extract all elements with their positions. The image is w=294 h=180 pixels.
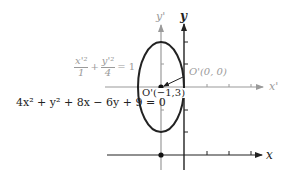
pointer-arrow	[164, 77, 183, 86]
projection-point	[158, 152, 163, 157]
equals-one: = 1	[117, 62, 135, 72]
general-form-equation: 4x² + y² + 8x − 6y + 9 = 0	[16, 97, 166, 108]
origin-prime-new-label: O'(0, 0)	[189, 67, 227, 77]
fraction-1: x'² 1	[74, 56, 88, 78]
x-prime-axis-label: x'	[269, 81, 278, 92]
y-axis-label: y	[180, 10, 187, 22]
standard-form-equation: x'² 1 + y'² 4 = 1	[74, 56, 135, 78]
x-axis-label: x	[266, 149, 273, 161]
fraction-2: y'² 4	[101, 56, 115, 78]
y-prime-axis-label: y'	[156, 11, 165, 22]
plus-sign: +	[90, 62, 98, 72]
